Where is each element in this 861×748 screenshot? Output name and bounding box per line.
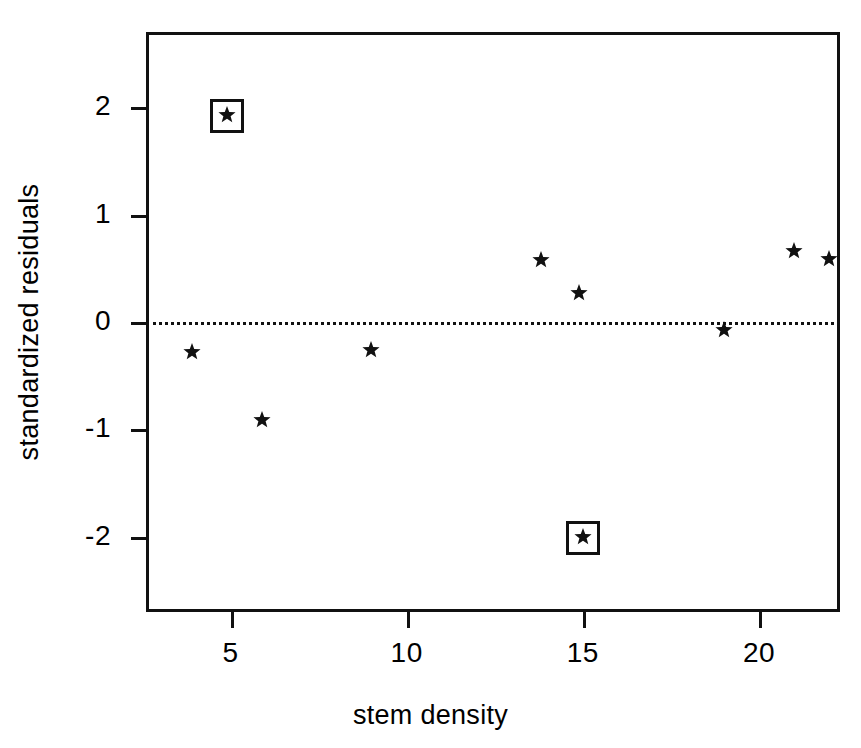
- x-tick-label: 20: [719, 639, 799, 667]
- star-marker-icon: [362, 341, 380, 359]
- y-tick-mark: [131, 429, 146, 432]
- y-tick-mark: [131, 215, 146, 218]
- x-tick-mark: [231, 612, 234, 628]
- x-tick-mark: [583, 612, 586, 628]
- y-tick-mark: [131, 537, 146, 540]
- star-marker-icon: [715, 321, 733, 339]
- y-tick-mark: [131, 107, 146, 110]
- x-tick-mark: [759, 612, 762, 628]
- plot-area: [146, 32, 840, 612]
- x-tick-label: 15: [543, 639, 623, 667]
- zero-reference-line: [146, 322, 840, 325]
- x-axis-title: stem density: [0, 700, 861, 731]
- star-marker-icon: [785, 242, 803, 260]
- star-marker-icon: [570, 284, 588, 302]
- star-marker-icon: [183, 343, 201, 361]
- x-tick-mark: [407, 612, 410, 628]
- star-marker-icon: [820, 250, 838, 268]
- star-marker-icon: [574, 528, 592, 546]
- y-axis-title: standardized residuals: [14, 32, 60, 612]
- residual-scatter-plot: 210-1-2 5101520 stem density standardize…: [0, 0, 861, 748]
- y-tick-mark: [131, 322, 146, 325]
- x-tick-label: 10: [367, 639, 447, 667]
- x-tick-label: 5: [191, 639, 271, 667]
- star-marker-icon: [532, 251, 550, 269]
- star-marker-icon: [253, 411, 271, 429]
- star-marker-icon: [218, 106, 236, 124]
